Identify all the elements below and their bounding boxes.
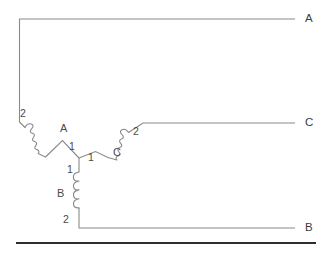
terminal-label-c-2: 2 [133, 126, 139, 137]
terminal-label-a-2: 2 [20, 108, 26, 119]
coil-label-b: B [57, 188, 64, 199]
terminal-label-a-1: 1 [69, 141, 75, 152]
phase-label-a: A [305, 13, 313, 25]
terminal-label-b-2: 2 [63, 214, 69, 225]
coil-label-a: A [60, 123, 67, 134]
phase-b-wire [79, 208, 295, 228]
terminal-label-b-1: 1 [67, 164, 73, 175]
phase-label-c: C [305, 117, 313, 129]
phase-label-b: B [305, 222, 313, 234]
coil-b-winding [73, 172, 79, 208]
coil-a-winding [25, 124, 46, 157]
coil-label-c: C [113, 147, 121, 158]
phase-c-wire [129, 123, 296, 133]
terminal-label-c-1: 1 [88, 152, 94, 163]
schematic-canvas [0, 0, 332, 254]
wye-connection-diagram: A C B A B C 2 1 1 2 1 2 [0, 0, 332, 254]
phase-a-wire [20, 19, 296, 128]
